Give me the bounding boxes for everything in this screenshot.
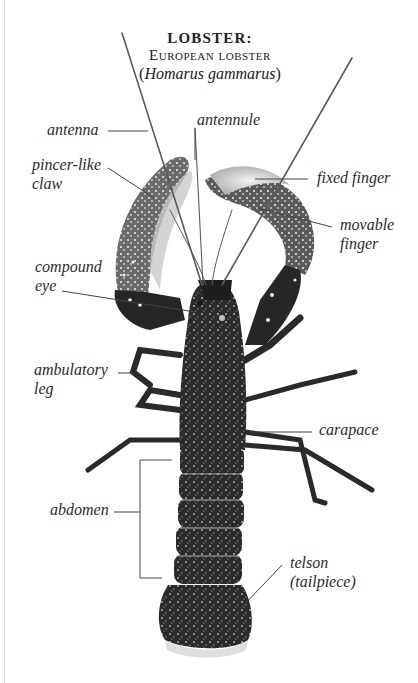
- label-abdomen: abdomen: [50, 500, 109, 519]
- latin-binomial: Homarus gammarus: [144, 65, 275, 82]
- label-fixed-finger: fixed finger: [317, 168, 390, 187]
- leader-telson: [241, 565, 282, 608]
- label-antennule: antennule: [197, 110, 260, 129]
- left-claw: [115, 157, 193, 330]
- label-compound-eye: compound eye: [35, 257, 102, 295]
- label-telson: telson (tailpiece): [290, 553, 356, 591]
- label-movable-finger-line2: finger: [340, 234, 394, 253]
- label-pincer-claw: pincer-like claw: [32, 155, 101, 193]
- title-common-name: European lobster: [130, 47, 290, 64]
- label-movable-finger: movable finger: [340, 215, 394, 253]
- title-latin-name: (Homarus gammarus): [130, 65, 290, 83]
- abdomen-shape: [174, 448, 244, 584]
- label-ambulatory-leg: ambulatory leg: [34, 360, 108, 398]
- label-compound-eye-line1: compound: [35, 257, 102, 276]
- latin-paren-close: ): [276, 65, 281, 82]
- label-ambulatory-leg-line2: leg: [34, 379, 108, 398]
- ambulatory-legs-right: [245, 318, 372, 503]
- label-pincer-claw-line1: pincer-like: [32, 155, 101, 174]
- telson-shape: [159, 585, 252, 658]
- carapace-shape: [179, 280, 246, 450]
- label-antenna: antenna: [47, 120, 99, 139]
- label-telson-line2: (tailpiece): [290, 572, 356, 591]
- label-compound-eye-line2: eye: [35, 276, 102, 295]
- diagram-title: LOBSTER: European lobster (Homarus gamma…: [130, 30, 290, 83]
- label-pincer-claw-line2: claw: [32, 174, 101, 193]
- label-telson-line1: telson: [290, 553, 356, 572]
- label-carapace: carapace: [319, 420, 379, 439]
- bracket-abdomen: [140, 460, 172, 578]
- title-heading: LOBSTER:: [130, 30, 290, 47]
- label-ambulatory-leg-line1: ambulatory: [34, 360, 108, 379]
- label-movable-finger-line1: movable: [340, 215, 394, 234]
